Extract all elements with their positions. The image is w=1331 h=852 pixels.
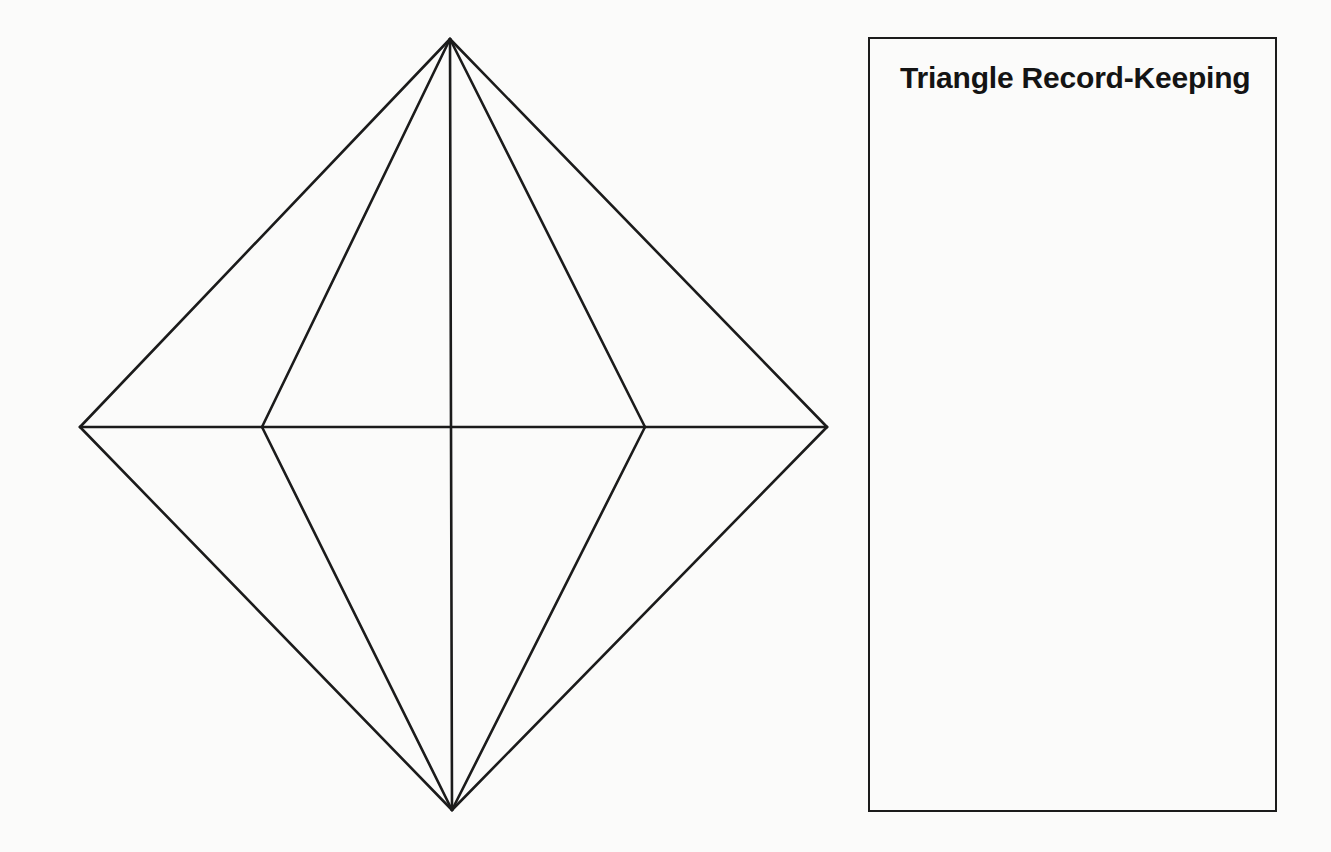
figure-edge-group [80,39,827,810]
page-canvas: Triangle Record-Keeping [0,0,1331,852]
figure-edge-apex-to-left-outer [80,39,450,427]
figure-edge-base-to-right-inner [452,427,645,810]
figure-edge-apex-to-right-inner [450,39,645,427]
figure-edge-base-to-left-outer [80,427,452,810]
notes-panel[interactable]: Triangle Record-Keeping [868,37,1277,812]
notes-panel-title: Triangle Record-Keeping [900,60,1252,96]
notes-panel-writing-area[interactable] [900,117,1253,794]
figure-edge-vertical-axis [450,39,452,810]
figure-edge-apex-to-left-inner [262,39,450,427]
figure-edge-base-to-right-outer [452,427,827,810]
figure-edge-apex-to-right-outer [450,39,827,427]
figure-edge-base-to-left-inner [262,427,452,810]
